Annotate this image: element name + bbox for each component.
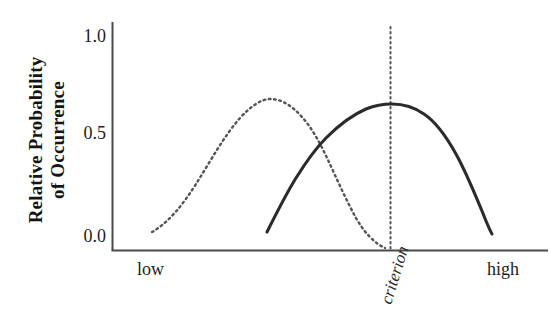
y-tick-label-1: 1.0	[62, 27, 106, 45]
y-tick-label-0: 0.0	[62, 227, 106, 245]
y-axis-title-line1: Relative Probability	[25, 57, 46, 224]
y-tick-label-0-5: 0.5	[62, 124, 106, 142]
y-tick-labels: 1.0 0.5 0.0	[58, 0, 106, 311]
chart-figure: Relative Probabilityof Occurrence 1.0 0.…	[0, 0, 550, 311]
series-signal-curve	[267, 104, 492, 234]
x-tick-label-high: high	[487, 260, 519, 278]
x-tick-label-low: low	[137, 260, 164, 278]
